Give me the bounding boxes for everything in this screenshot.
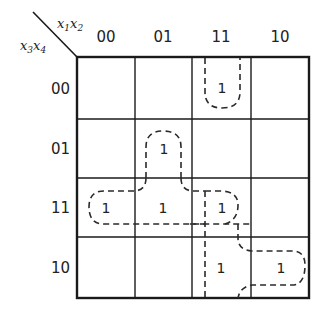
row-header-00: 00 xyxy=(51,80,70,98)
column-header-01: 01 xyxy=(153,28,172,46)
cell-r2-c2: 1 xyxy=(218,200,227,216)
column-header-00: 00 xyxy=(96,28,115,46)
row-variables-label: x3x4 xyxy=(20,38,46,55)
cell-r2-c1: 1 xyxy=(159,200,168,216)
row-header-01: 01 xyxy=(51,140,70,158)
row-header-10: 10 xyxy=(51,259,70,277)
column-header-10: 10 xyxy=(270,28,289,46)
row-header-11: 11 xyxy=(51,199,70,217)
cell-r3-c2: 1 xyxy=(217,260,226,276)
column-variables-label: x1x2 xyxy=(57,16,83,33)
column-header-11: 11 xyxy=(211,28,230,46)
loop-row11-cols00-11 xyxy=(89,178,253,224)
cell-r0-c2: 1 xyxy=(218,80,227,96)
karnaugh-map: x1x2 x3x4 00 01 11 10 00 01 11 10 1 1 1 … xyxy=(0,0,333,325)
cell-r1-c1: 1 xyxy=(160,141,169,157)
cell-r2-c0: 1 xyxy=(102,200,111,216)
map-grid xyxy=(77,57,309,298)
cell-r3-c3: 1 xyxy=(277,260,286,276)
